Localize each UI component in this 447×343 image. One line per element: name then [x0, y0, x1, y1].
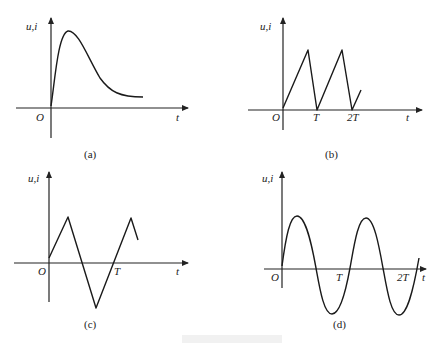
x-axis-label: t — [422, 271, 426, 283]
y-axis-label: u,i — [260, 20, 271, 32]
origin-label: O — [272, 111, 280, 123]
x-axis-label: t — [406, 111, 410, 123]
panel-c: u,i O T t (c) — [14, 172, 188, 331]
y-axis-label: u,i — [28, 172, 39, 184]
panel-d: u,i O T 2T t (d) — [262, 172, 426, 331]
pulse-curve — [51, 31, 143, 106]
origin-label: O — [38, 265, 46, 277]
tick-label-T: T — [313, 111, 320, 123]
tick-label-T: T — [336, 271, 343, 283]
caption-a: (a) — [84, 148, 97, 161]
sine-curve — [282, 216, 419, 315]
caption-c: (c) — [84, 318, 97, 331]
x-axis-label: t — [176, 111, 180, 123]
waveform-figure: u,i O t (a) u,i O T 2T t (b) u,i O T t (… — [0, 0, 447, 343]
origin-label: O — [271, 271, 279, 283]
panel-b: u,i O T 2T t (b) — [248, 18, 422, 161]
panel-a: u,i O t (a) — [16, 18, 188, 161]
x-axis-label: t — [176, 265, 180, 277]
y-axis-label: u,i — [262, 172, 273, 184]
figure-caption-faint — [182, 335, 282, 343]
caption-d: (d) — [333, 318, 346, 331]
tick-label-2T: 2T — [397, 271, 410, 283]
y-axis-label: u,i — [26, 20, 37, 32]
caption-b: (b) — [325, 148, 338, 161]
tick-label-2T: 2T — [347, 111, 360, 123]
origin-label: O — [36, 111, 44, 123]
sawtooth-curve — [283, 50, 361, 110]
tick-label-T: T — [114, 265, 121, 277]
